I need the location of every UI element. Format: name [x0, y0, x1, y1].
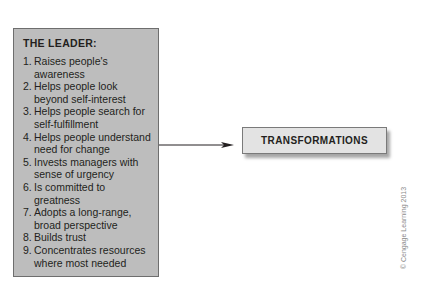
leader-title: THE LEADER: — [23, 37, 152, 49]
item-text: Concentrates resources where most needed — [34, 244, 152, 269]
leader-list: 1.Raises people's awareness 2.Helps peop… — [23, 55, 152, 269]
item-text: Builds trust — [34, 231, 152, 244]
item-number: 2. — [23, 80, 34, 105]
item-text: Is committed to greatness — [34, 181, 152, 206]
item-number: 3. — [23, 105, 34, 130]
copyright-watermark: © Cengage Learning 2013 — [400, 187, 407, 269]
list-item: 9.Concentrates resources where most need… — [23, 244, 152, 269]
transformations-box: TRANSFORMATIONS — [242, 127, 387, 154]
list-item: 8.Builds trust — [23, 231, 152, 244]
leader-box: THE LEADER: 1.Raises people's awareness … — [13, 28, 159, 277]
item-number: 4. — [23, 131, 34, 156]
item-number: 7. — [23, 206, 34, 231]
list-item: 4.Helps people understand need for chang… — [23, 131, 152, 156]
list-item: 6.Is committed to greatness — [23, 181, 152, 206]
transformations-label: TRANSFORMATIONS — [261, 135, 368, 146]
list-item: 7.Adopts a long-range, broad perspective — [23, 206, 152, 231]
item-text: Raises people's awareness — [34, 55, 152, 80]
item-number: 1. — [23, 55, 34, 80]
item-text: Helps people look beyond self-interest — [34, 80, 152, 105]
item-text: Helps people search for self-fulfillment — [34, 105, 152, 130]
item-number: 6. — [23, 181, 34, 206]
item-number: 9. — [23, 244, 34, 269]
list-item: 2.Helps people look beyond self-interest — [23, 80, 152, 105]
list-item: 3.Helps people search for self-fulfillme… — [23, 105, 152, 130]
item-number: 5. — [23, 156, 34, 181]
item-text: Helps people understand need for change — [34, 131, 152, 156]
list-item: 5.Invests managers with sense of urgency — [23, 156, 152, 181]
arrow-right-icon — [159, 140, 234, 150]
item-number: 8. — [23, 231, 34, 244]
item-text: Invests managers with sense of urgency — [34, 156, 152, 181]
list-item: 1.Raises people's awareness — [23, 55, 152, 80]
item-text: Adopts a long-range, broad perspective — [34, 206, 152, 231]
